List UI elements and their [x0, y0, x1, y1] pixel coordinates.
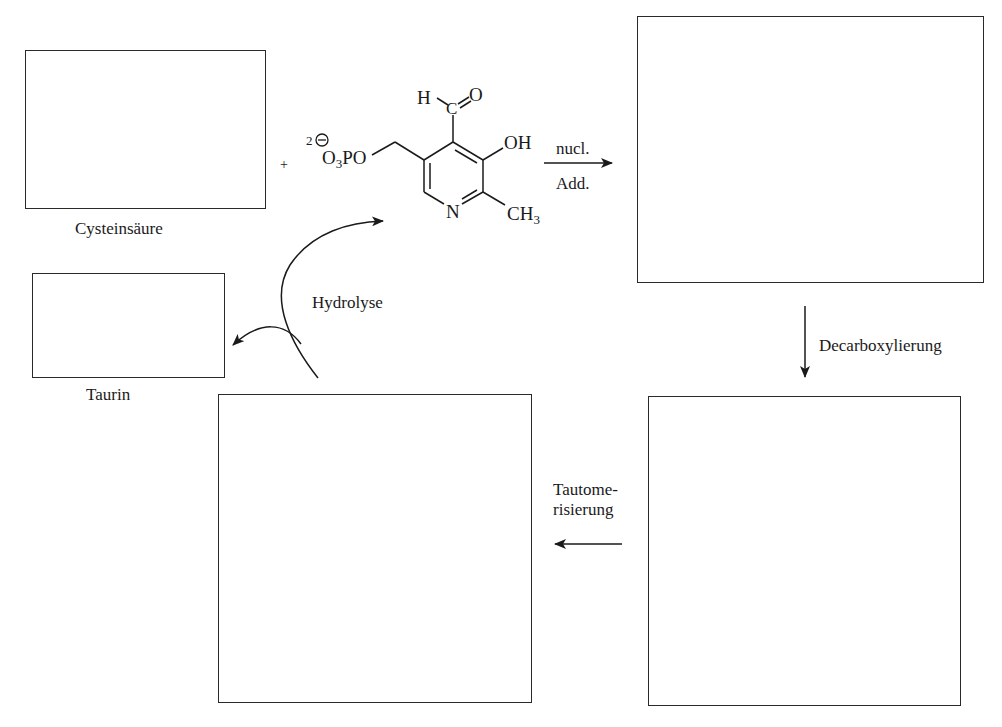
aldehyde-c-label: C: [446, 99, 457, 118]
hydrolyse-arrow-to-taurin: [233, 327, 301, 345]
phosphate-label: O3PO: [322, 147, 367, 171]
tautomerisierung-label-line2: risierung: [553, 501, 613, 518]
molecule-atom-labels: H C O OH N CH3 O3PO 2: [306, 84, 540, 227]
aldehyde-h-label: H: [417, 87, 431, 108]
aldehyde-o-label: O: [469, 84, 483, 105]
minus-charge-icon: [316, 134, 328, 146]
cysteinsaeure-box[interactable]: [25, 50, 266, 209]
intermediate-3-box[interactable]: [218, 394, 532, 703]
taurin-box[interactable]: [32, 273, 225, 378]
tautomerisierung-label-line1: Tautome-: [553, 481, 618, 498]
decarboxylierung-label: Decarboxylierung: [819, 337, 942, 354]
clipped-previous-line: [0, 0, 1002, 6]
cysteinsaeure-label: Cysteinsäure: [75, 220, 163, 237]
hydrolyse-label: Hydrolyse: [312, 294, 383, 311]
phosphate-charge-label: 2: [306, 133, 313, 148]
pyridoxal-phosphate-molecule: [372, 97, 505, 205]
intermediate-1-box[interactable]: [637, 16, 984, 283]
intermediate-2-box[interactable]: [648, 396, 961, 706]
nucl-label: nucl.: [556, 140, 590, 157]
taurin-label: Taurin: [86, 386, 130, 403]
methyl-label: CH3: [507, 203, 540, 227]
hydroxyl-label: OH: [504, 132, 532, 153]
ring-nitrogen-label: N: [446, 201, 460, 222]
add-label: Add.: [556, 175, 590, 192]
plus-sign: +: [280, 157, 288, 172]
